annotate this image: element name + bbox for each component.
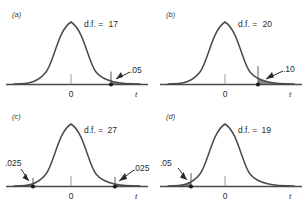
shaded-tail-right bbox=[258, 20, 299, 84]
leader-arrowhead bbox=[180, 172, 187, 180]
df-prefix: d.f. = bbox=[238, 19, 257, 29]
df-value: 20 bbox=[263, 19, 273, 29]
panel-d: (d) d.f. = 19 .05 0 t bbox=[154, 102, 308, 204]
df-value: 27 bbox=[108, 125, 118, 135]
panel-tag: (c) bbox=[12, 112, 21, 121]
tail-area-label: .10 bbox=[283, 64, 295, 74]
panel-tag: (a) bbox=[12, 10, 22, 19]
t-density-curve bbox=[168, 124, 294, 186]
zero-label: 0 bbox=[69, 89, 74, 99]
critical-value-dot bbox=[189, 184, 193, 188]
panel-tag: (d) bbox=[166, 112, 176, 121]
leader-arrowhead-left bbox=[23, 174, 30, 182]
df-value: 19 bbox=[262, 125, 272, 135]
df-label: d.f. = 20 bbox=[238, 19, 272, 29]
zero-label: 0 bbox=[223, 191, 228, 201]
df-prefix: d.f. = bbox=[84, 125, 103, 135]
critical-value-dot-left bbox=[31, 184, 35, 188]
zero-label: 0 bbox=[69, 191, 74, 201]
tail-area-label-right: .025 bbox=[133, 163, 150, 173]
t-density-curve bbox=[14, 124, 140, 186]
panel-tag: (b) bbox=[166, 10, 176, 19]
df-label: d.f. = 27 bbox=[84, 125, 117, 135]
t-axis-label: t bbox=[289, 192, 292, 201]
panel-a: (a) d.f. = 17 .05 0 t bbox=[0, 0, 154, 102]
shaded-tail-right bbox=[115, 122, 145, 186]
zero-label: 0 bbox=[223, 89, 228, 99]
leader-arrowhead bbox=[116, 72, 123, 79]
critical-value-dot-right bbox=[113, 184, 117, 188]
df-label: d.f. = 17 bbox=[84, 19, 118, 29]
panel-b: (b) d.f. = 20 .10 0 t bbox=[154, 0, 308, 102]
df-label: d.f. = 19 bbox=[238, 125, 271, 135]
tail-area-label: .05 bbox=[160, 158, 172, 168]
critical-value-dot bbox=[109, 82, 113, 86]
t-axis-label: t bbox=[135, 90, 138, 99]
t-axis-label: t bbox=[135, 192, 138, 201]
t-distribution-figure: (a) d.f. = 17 .05 0 t bbox=[0, 0, 308, 205]
t-axis-label: t bbox=[289, 90, 292, 99]
tail-area-label-left: .025 bbox=[5, 158, 22, 168]
shaded-tail-left bbox=[163, 122, 191, 186]
tail-area-label: .05 bbox=[130, 65, 142, 75]
panel-c: (c) d.f. = 27 .025 .025 0 t bbox=[0, 102, 154, 204]
df-prefix: d.f. = bbox=[238, 125, 257, 135]
leader-arrowhead bbox=[266, 72, 274, 79]
df-prefix: d.f. = bbox=[84, 19, 103, 29]
df-value: 17 bbox=[109, 19, 119, 29]
leader-arrowhead-right bbox=[119, 173, 127, 181]
critical-value-dot bbox=[256, 82, 260, 86]
shaded-tail-left bbox=[9, 122, 33, 186]
